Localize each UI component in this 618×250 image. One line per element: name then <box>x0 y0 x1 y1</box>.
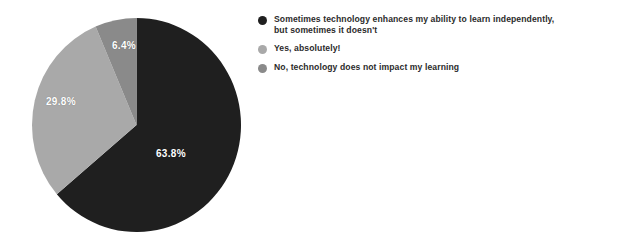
legend-item-0[interactable]: Sometimes technology enhances my ability… <box>258 14 610 35</box>
chart-legend: Sometimes technology enhances my ability… <box>258 14 610 81</box>
pie-slice-group <box>32 18 241 232</box>
pie-chart-figure: 63.8% 29.8% 6.4% Sometimes technology en… <box>0 0 618 250</box>
legend-item-1[interactable]: Yes, absolutely! <box>258 43 610 54</box>
legend-item-label-0-line1: Sometimes technology enhances my ability… <box>274 14 554 24</box>
legend-item-label-1-line1: Yes, absolutely! <box>274 43 341 53</box>
legend-color-swatch-icon-0 <box>258 16 267 25</box>
pie-slice-value-label-1: 29.8% <box>46 96 76 107</box>
legend-item-label-2-line1: No, technology does not impact my learni… <box>274 62 459 72</box>
legend-color-swatch-icon-2 <box>258 64 267 73</box>
pie-slice-value-label-0: 63.8% <box>156 148 186 159</box>
legend-item-label-2: No, technology does not impact my learni… <box>274 62 459 73</box>
legend-item-label-1: Yes, absolutely! <box>274 43 341 54</box>
legend-item-label-0-line2: but sometimes it doesn't <box>274 25 377 35</box>
pie-svg <box>32 18 241 232</box>
legend-item-2[interactable]: No, technology does not impact my learni… <box>258 62 610 73</box>
pie-slice-value-label-2: 6.4% <box>112 40 136 51</box>
legend-color-swatch-icon-1 <box>258 45 267 54</box>
pie-chart-plot-area: 63.8% 29.8% 6.4% <box>32 18 241 232</box>
legend-item-label-0: Sometimes technology enhances my ability… <box>274 14 554 35</box>
